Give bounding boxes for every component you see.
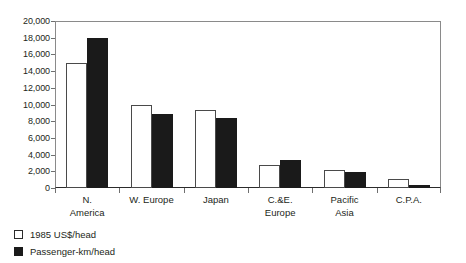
y-tick-label: 4,000 [0,150,50,159]
legend-label: Passenger-km/head [30,247,115,257]
bar-chart: 20,00018,00016,00014,00012,00010,0008,00… [0,0,466,263]
x-category-label-line2: Europe [265,206,296,219]
x-category-label-line1: C.&E. [268,194,293,205]
bar-group [131,21,173,188]
bars-layer [55,21,441,188]
x-category-label-line1: N. [82,194,92,205]
y-tick-mark [51,155,55,156]
bar-usd-head [259,165,280,188]
x-category-label: C.&E.Europe [265,193,296,219]
x-category-label: C.P.A. [396,193,422,206]
y-tick-mark [51,105,55,106]
x-category-label-line1: C.P.A. [396,194,422,205]
y-tick-mark [51,54,55,55]
bar-passenger-km-head [280,160,301,188]
bar-usd-head [66,63,87,188]
bar-usd-head [324,170,345,188]
y-tick-label: 20,000 [0,17,50,26]
bar-passenger-km-head [345,172,366,188]
x-category-label: PacificAsia [331,193,359,219]
x-category-label: N.America [70,193,105,219]
bar-usd-head [388,179,409,188]
bar-passenger-km-head [87,38,108,188]
y-tick-label: 14,000 [0,67,50,76]
y-tick-mark [51,188,55,189]
y-tick-mark [51,88,55,89]
x-category-label-line1: Japan [203,194,229,205]
bar-group [195,21,237,188]
bar-group [324,21,366,188]
y-tick-label: 12,000 [0,83,50,92]
y-tick-label: 0 [0,184,50,193]
bar-passenger-km-head [216,118,237,188]
y-axis: 20,00018,00016,00014,00012,00010,0008,00… [0,0,50,263]
y-tick-label: 10,000 [0,100,50,109]
bar-passenger-km-head [152,114,173,188]
bar-group [388,21,430,188]
x-category-label-line1: Pacific [331,194,359,205]
bar-usd-head [195,110,216,188]
x-category-label-line2: Asia [331,206,359,219]
bar-group [66,21,108,188]
legend-label: 1985 US$/head [30,230,96,240]
y-tick-mark [51,171,55,172]
legend-swatch-white-square-icon [14,230,23,239]
x-category-label: Japan [203,193,229,206]
y-tick-mark [51,71,55,72]
y-tick-label: 2,000 [0,167,50,176]
bar-usd-head [131,105,152,188]
y-tick-label: 18,000 [0,33,50,42]
y-tick-mark [51,38,55,39]
legend-swatch-black-square-icon [14,247,23,256]
bar-group [259,21,301,188]
y-tick-mark [51,138,55,139]
y-tick-label: 16,000 [0,50,50,59]
y-tick-label: 6,000 [0,133,50,142]
legend-item: 1985 US$/head [14,226,115,243]
x-category-label-line1: W. Europe [129,194,173,205]
y-tick-mark [51,121,55,122]
chart-legend: 1985 US$/headPassenger-km/head [14,226,115,260]
x-category-label-line2: America [70,206,105,219]
y-tick-mark [51,21,55,22]
y-tick-label: 8,000 [0,117,50,126]
x-category-label: W. Europe [129,193,173,206]
legend-item: Passenger-km/head [14,243,115,260]
